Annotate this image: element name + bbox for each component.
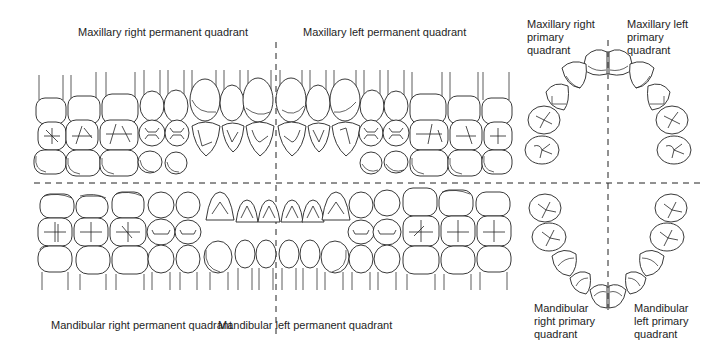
dental-chart <box>0 0 725 348</box>
maxillary-permanent-arch <box>34 70 512 176</box>
mandibular-permanent-arch <box>38 188 511 290</box>
